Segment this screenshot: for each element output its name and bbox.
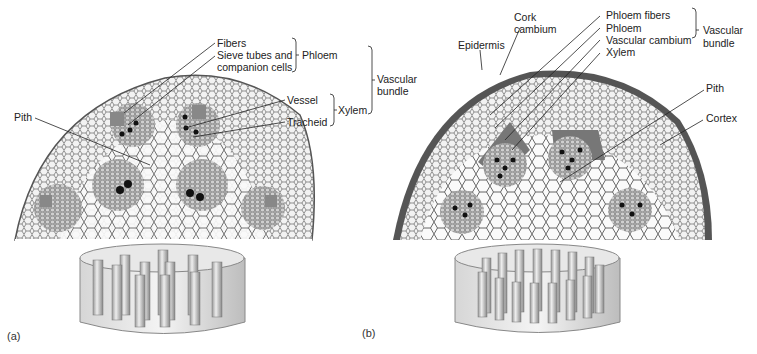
label-cork: Cork [514,11,536,23]
label-bundle-a: bundle [377,85,409,97]
label-pith-a: Pith [14,111,32,123]
label-xylem-b: Xylem [606,46,635,58]
label-cortex: Cortex [706,112,737,124]
label-vascular-b: Vascular [703,24,743,36]
label-sieve-tubes: Sieve tubes and [217,49,292,61]
label-tracheid: Tracheid [287,116,327,128]
label-companion-cells: companion cells [217,61,292,73]
dicot-3d-model [455,244,620,333]
label-phloem-b: Phloem [606,22,642,34]
dicot-cross-section [393,71,712,240]
diagram-canvas [0,0,757,354]
monocot-cross-section [15,75,314,240]
panel-b-letter: (b) [362,327,375,339]
monocot-3d-model [80,244,245,334]
label-vessel: Vessel [287,94,318,106]
label-cambium: cambium [514,23,557,35]
panel-a-letter: (a) [7,330,20,342]
label-vascular-a: Vascular [377,73,417,85]
label-fibers: Fibers [217,37,246,49]
label-vascular-cambium: Vascular cambium [606,34,692,46]
label-xylem-a: Xylem [338,104,367,116]
label-pith-b: Pith [706,82,724,94]
label-bundle-b: bundle [703,37,735,49]
label-epidermis: Epidermis [458,39,505,51]
label-phloem-a: Phloem [302,49,338,61]
label-phloem-fibers: Phloem fibers [606,9,670,21]
